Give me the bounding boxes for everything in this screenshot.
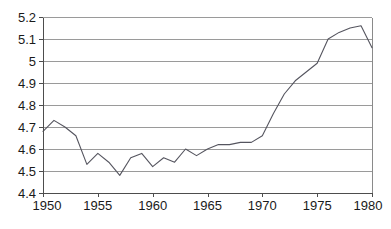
y-tick-label: 4.8: [18, 98, 36, 113]
line-chart: 4.44.54.64.74.84.955.15.2 19501955196019…: [0, 0, 391, 229]
y-axis-tick-labels: 4.44.54.64.74.84.955.15.2: [18, 10, 36, 201]
x-tick-label: 1970: [248, 198, 277, 213]
chart-canvas: 4.44.54.64.74.84.955.15.2 19501955196019…: [0, 0, 391, 229]
x-tick-label: 1950: [33, 198, 62, 213]
y-tick-label: 4.7: [18, 120, 36, 135]
y-tick-label: 5.1: [18, 32, 36, 47]
y-tick-label: 5: [29, 54, 36, 69]
y-tick-label: 4.6: [18, 142, 36, 157]
x-tick-label: 1960: [138, 198, 167, 213]
x-tick-label: 1975: [303, 198, 332, 213]
chart-background: [0, 0, 391, 229]
x-tick-label: 1955: [83, 198, 112, 213]
x-tick-label: 1965: [193, 198, 222, 213]
y-tick-label: 4.9: [18, 76, 36, 91]
x-axis-tick-labels: 1950195519601965197019751980: [33, 198, 383, 213]
x-tick-label: 1980: [354, 198, 383, 213]
y-tick-label: 4.5: [18, 164, 36, 179]
y-tick-label: 5.2: [18, 10, 36, 25]
